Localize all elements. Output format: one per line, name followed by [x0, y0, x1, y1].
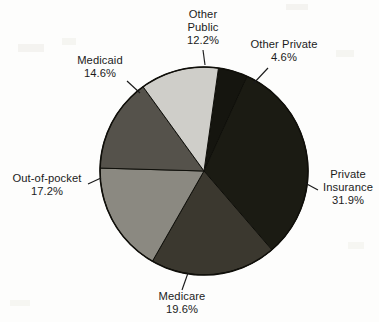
- pie-chart: Other Public 12.2% Other Private 4.6% Pr…: [0, 0, 379, 322]
- slice-label-medicaid-value: 14.6%: [62, 67, 138, 80]
- slice-label-other-public-line2: Public: [170, 21, 236, 34]
- slice-label-other-private: Other Private 4.6%: [236, 38, 332, 64]
- slice-label-private-insurance: Private Insurance 31.9%: [318, 168, 378, 208]
- slice-label-other-public-line1: Other: [170, 8, 236, 21]
- slice-label-other-public: Other Public 12.2%: [170, 8, 236, 48]
- slice-label-medicare: Medicare 19.6%: [140, 290, 224, 316]
- slice-label-medicaid-line1: Medicaid: [62, 54, 138, 67]
- leader-line-other-private: [253, 68, 268, 84]
- slice-label-other-private-line1: Other Private: [236, 38, 332, 51]
- slice-label-medicare-line1: Medicare: [140, 290, 224, 303]
- slice-label-medicare-value: 19.6%: [140, 303, 224, 316]
- slice-label-private-insurance-line2: Insurance: [318, 181, 378, 194]
- slice-label-medicaid: Medicaid 14.6%: [62, 54, 138, 80]
- slice-label-private-insurance-line1: Private: [318, 168, 378, 181]
- slice-label-out-of-pocket-value: 17.2%: [6, 185, 88, 198]
- slice-label-other-public-value: 12.2%: [170, 34, 236, 47]
- leader-line-other-public: [203, 50, 205, 65]
- slice-label-out-of-pocket: Out-of-pocket 17.2%: [6, 172, 88, 198]
- slice-label-other-private-value: 4.6%: [236, 51, 332, 64]
- leader-line-medicare: [182, 273, 188, 290]
- slice-label-private-insurance-value: 31.9%: [318, 194, 378, 207]
- slice-label-out-of-pocket-line1: Out-of-pocket: [6, 172, 88, 185]
- pie-slices: [100, 67, 308, 275]
- leader-line-out-of-pocket: [88, 178, 101, 184]
- leader-line-medicaid: [127, 81, 140, 93]
